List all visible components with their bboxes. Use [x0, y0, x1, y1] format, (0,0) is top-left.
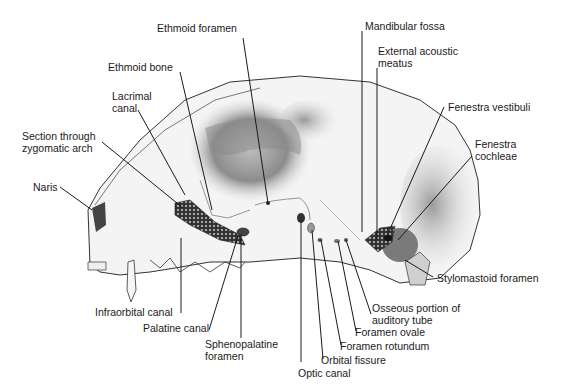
label-optic-canal: Optic canal	[298, 367, 351, 379]
cat-skull-diagram: Ethmoid foramen Ethmoid bone Lacrimal ca…	[0, 0, 567, 390]
upper-canine	[127, 260, 136, 302]
label-infraorbital-canal: Infraorbital canal	[95, 306, 173, 318]
label-fenestra-vestibuli: Fenestra vestibuli	[448, 101, 530, 113]
incisors	[88, 262, 106, 270]
skull-illustration	[0, 0, 567, 390]
label-stylomastoid-foramen: Stylomastoid foramen	[437, 272, 539, 284]
label-osseous-auditory-tube: Osseous portion of auditory tube	[372, 302, 460, 326]
label-section-zygomatic-arch: Section through zygomatic arch	[22, 130, 96, 154]
label-lacrimal-canal: Lacrimal canal	[112, 90, 152, 114]
label-foramen-rotundum: Foramen rotundum	[340, 340, 429, 352]
label-sphenopalatine-foramen: Sphenopalatine foramen	[205, 338, 278, 362]
label-palatine-canal: Palatine canal	[143, 322, 209, 334]
label-naris: Naris	[33, 181, 58, 193]
label-ethmoid-foramen: Ethmoid foramen	[157, 22, 237, 34]
label-mandibular-fossa: Mandibular fossa	[365, 20, 445, 32]
label-external-acoustic-meatus: External acoustic meatus	[378, 45, 458, 69]
label-orbital-fissure: Orbital fissure	[321, 354, 386, 366]
label-fenestra-cochleae: Fenestra cochleae	[475, 138, 517, 162]
label-foramen-ovale: Foramen ovale	[355, 326, 425, 338]
label-ethmoid-bone: Ethmoid bone	[108, 61, 173, 73]
